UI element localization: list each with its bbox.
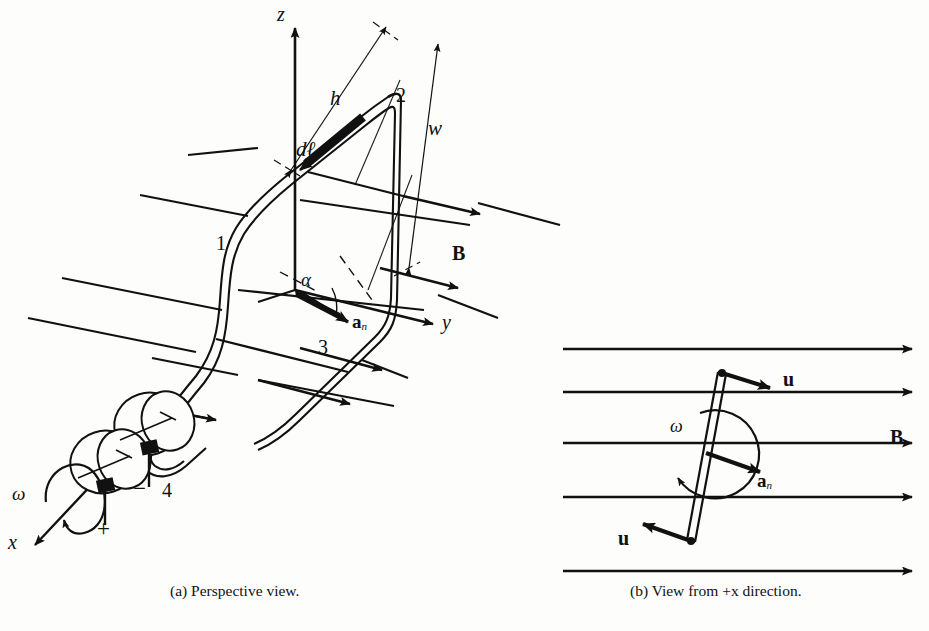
omega-label-a: ω [12, 484, 25, 503]
normal-vector-a-label: an [352, 312, 367, 332]
caption-panel-a: (a) Perspective view. [170, 583, 299, 599]
corner-label-1: 1 [216, 233, 226, 253]
panel-b-u-top-label: u [783, 369, 794, 389]
corner-label-2: 2 [396, 85, 406, 105]
axis-y-label: y [442, 312, 451, 332]
normal-vector-a [295, 290, 348, 322]
corner-label-4: 4 [162, 480, 172, 500]
panel-b-u-top [722, 373, 770, 388]
terminal-negative-label: − [133, 477, 146, 500]
panel-b-omega-arc [678, 410, 759, 498]
panel-b-u-bottom-label: u [618, 528, 629, 548]
corner-label-3: 3 [318, 337, 328, 357]
panel-a-field-arrows [133, 196, 480, 420]
figure-root: z y x h w dℓ an α B ω 1 2 3 4 + − u u an… [0, 0, 929, 631]
terminal-positive-label: + [97, 517, 110, 540]
axis-z-label: z [277, 4, 285, 24]
field-label-b: B [890, 427, 903, 447]
dimension-w-label: w [428, 118, 442, 139]
panel-b-normal-vector [706, 453, 760, 472]
panel-b-field-lines [563, 349, 912, 571]
caption-panel-b: (b) View from +x direction. [630, 583, 802, 599]
panel-b-u-bottom [643, 524, 691, 541]
panel-b-normal-vector-label: an [757, 471, 772, 491]
field-label-a: B [452, 243, 465, 263]
dl-vector-label: dℓ [296, 139, 315, 160]
figure-canvas [0, 0, 929, 631]
dimension-h-label: h [330, 88, 341, 109]
alpha-angle-label: α [301, 270, 311, 289]
axis-x-label: x [8, 532, 17, 552]
panel-b-omega-label: ω [670, 417, 683, 435]
